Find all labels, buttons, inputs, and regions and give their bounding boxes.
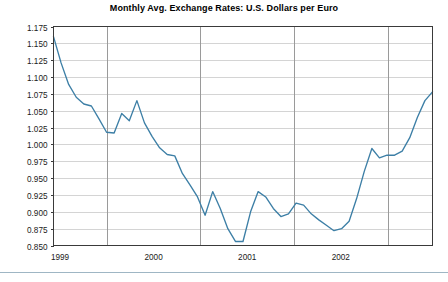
y-axis-tick-label: 0.900 <box>27 209 48 218</box>
line-chart-plot: 1.1751.1501.1251.1001.0751.0501.0251.000… <box>0 0 448 282</box>
y-axis-tick-label: 1.050 <box>27 108 48 117</box>
x-axis-tick-labels: 1999200020012002 <box>51 253 350 262</box>
horizontal-gridlines <box>54 44 433 230</box>
x-axis-tick-label: 1999 <box>51 253 70 262</box>
y-axis-tick-label: 0.975 <box>27 158 48 167</box>
y-axis-tick-label: 0.875 <box>27 226 48 235</box>
y-axis-tick-label: 0.850 <box>27 243 48 252</box>
y-axis-tick-labels: 1.1751.1501.1251.1001.0751.0501.0251.000… <box>27 24 48 252</box>
x-axis-tick-label: 2002 <box>332 253 351 262</box>
data-series-line <box>54 37 433 242</box>
y-axis-tick-label: 1.100 <box>27 74 48 83</box>
y-axis-tick-label: 0.950 <box>27 175 48 184</box>
footer-divider <box>0 272 448 273</box>
x-axis-tick-label: 2001 <box>238 253 257 262</box>
y-axis-tick-label: 1.125 <box>27 57 48 66</box>
x-axis-tick-label: 2000 <box>145 253 164 262</box>
chart-figure: Monthly Avg. Exchange Rates: U.S. Dollar… <box>0 0 448 282</box>
y-axis-tick-label: 0.925 <box>27 192 48 201</box>
y-axis-tick-label: 1.025 <box>27 125 48 134</box>
y-axis-tick-label: 1.175 <box>27 24 48 33</box>
y-axis-tick-label: 1.150 <box>27 40 48 49</box>
y-axis-tick-label: 1.000 <box>27 141 48 150</box>
y-axis-tick-label: 1.075 <box>27 91 48 100</box>
